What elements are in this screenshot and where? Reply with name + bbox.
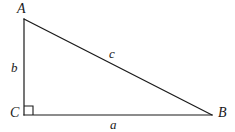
side-label-b: b [11,61,18,74]
side-c-hypotenuse-line [24,19,212,115]
vertex-label-a: A [17,2,26,16]
side-label-c: c [109,47,115,60]
side-label-a: a [110,118,117,131]
triangle-drawing-canvas [0,0,235,132]
triangle-figure: A B C a b c [0,0,235,132]
vertex-label-b: B [218,106,227,120]
vertex-label-c: C [10,106,19,120]
right-angle-marker-icon [24,106,33,115]
